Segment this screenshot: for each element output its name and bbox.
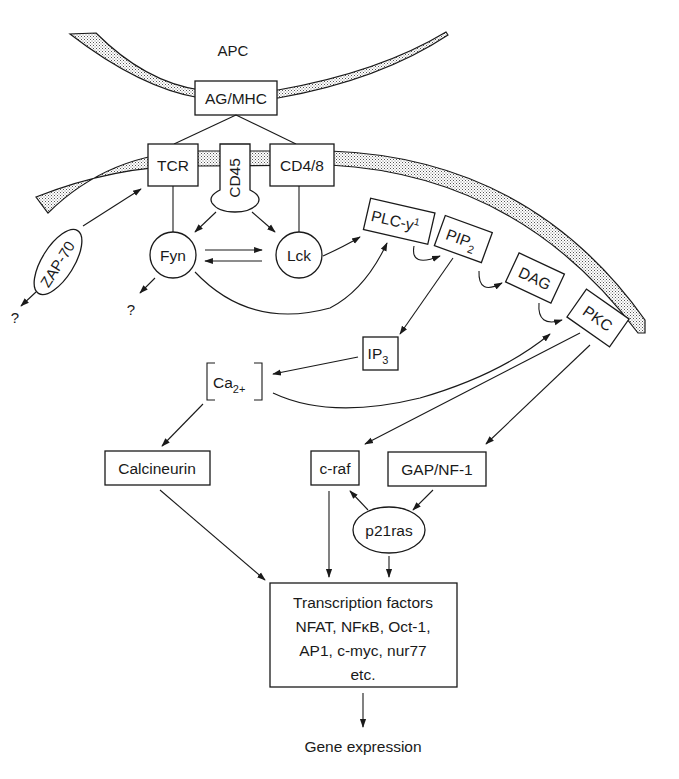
edge-zap70-unknown	[21, 292, 36, 306]
lck-label: Lck	[287, 247, 311, 264]
edge-pip2-dag	[479, 271, 502, 287]
signaling-diagram: APC AG/MHC TCR CD45 CD4/8 Fyn Lck	[0, 0, 679, 779]
apc-label: APC	[218, 42, 249, 59]
calcium-node: Ca2+	[207, 363, 262, 400]
lck-node: Lck	[276, 232, 322, 278]
tf-line-2: NFAT, NFκB, Oct-1,	[296, 618, 431, 635]
ag-mhc-label: AG/MHC	[205, 90, 267, 107]
tf-line-4: etc.	[351, 666, 376, 683]
p21ras-label: p21ras	[365, 522, 413, 539]
edge-cd45-fyn	[195, 212, 216, 232]
dag-node: DAG	[506, 253, 565, 303]
plc-y1-node: PLC-y1	[363, 198, 435, 244]
calcineurin-label: Calcineurin	[118, 460, 196, 477]
edge-cd45-lck	[252, 212, 275, 232]
tf-line-3: AP1, c-myc, nur77	[299, 642, 427, 659]
edge-agmhc-tcr	[174, 115, 236, 144]
calcium-subscript: 2+	[233, 383, 246, 395]
p21ras-node: p21ras	[353, 507, 425, 553]
edge-gap-p21ras	[413, 490, 433, 510]
cd45-label: CD45	[226, 158, 243, 198]
edge-calcineurin-tf	[160, 490, 265, 580]
calcineurin-node: Calcineurin	[105, 451, 210, 485]
edge-agmhc-cd48	[236, 115, 296, 144]
tf-line-1: Transcription factors	[293, 594, 433, 611]
fyn-node: Fyn	[150, 232, 196, 278]
edge-p21ras-craf	[350, 491, 368, 510]
transcription-factors-node: Transcription factors NFAT, NFκB, Oct-1,…	[270, 583, 457, 687]
ip3-subscript: 3	[382, 354, 388, 366]
cd4-8-node: CD4/8	[270, 144, 334, 186]
calcium-label: Ca	[213, 374, 233, 391]
gene-expression-label: Gene expression	[304, 738, 421, 755]
ip3-label: IP	[368, 345, 383, 362]
calcium-bracket-right	[254, 363, 262, 400]
zap70-node: ZAP-70	[25, 222, 91, 302]
edge-lck-plc	[323, 237, 360, 256]
ag-mhc-node: AG/MHC	[195, 81, 277, 115]
gap-nf1-node: GAP/NF-1	[388, 452, 486, 486]
edge-zap70-tcr	[83, 189, 141, 226]
ip3-node: IP3	[363, 337, 398, 370]
gap-nf1-label: GAP/NF-1	[401, 461, 472, 478]
c-raf-node: c-raf	[311, 451, 359, 485]
tcr-label: TCR	[157, 157, 189, 174]
zap70-unknown-label: ?	[11, 309, 19, 326]
edge-ip3-ca	[273, 357, 358, 374]
edge-pkc-gap	[486, 345, 590, 444]
edge-dag-pkc	[539, 303, 562, 322]
cd4-8-label: CD4/8	[280, 157, 324, 174]
fyn-label: Fyn	[160, 247, 186, 264]
edge-ca-pkc	[273, 334, 550, 408]
edge-plc-pip2	[414, 246, 440, 260]
edge-pip2-ip3	[400, 258, 453, 334]
diagram-canvas: APC AG/MHC TCR CD45 CD4/8 Fyn Lck	[0, 0, 679, 779]
svg-text:Ca2+: Ca2+	[213, 374, 245, 395]
c-raf-label: c-raf	[320, 460, 352, 477]
pip2-node: PIP2	[434, 215, 492, 262]
edge-ca-calcineurin	[162, 404, 203, 446]
edge-fyn-unknown	[140, 278, 155, 293]
fyn-unknown-label: ?	[127, 301, 135, 318]
tcr-node: TCR	[148, 144, 198, 186]
